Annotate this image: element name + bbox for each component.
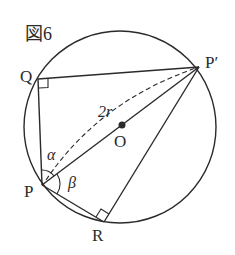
chord-q-p [38,79,42,185]
chord-q-pprime [38,67,199,79]
label-2r: 2r [98,103,113,120]
label-r: R [92,226,104,245]
label-beta: β [67,174,76,192]
label-q: Q [20,67,32,86]
label-pprime: P′ [205,53,218,72]
label-o: O [114,132,126,151]
right-angle-marker-q [39,79,48,88]
geometry-figure: 図6 Q P′ P R O 2r α β [0,0,235,255]
center-point-o [119,122,126,129]
label-alpha: α [47,146,56,163]
angle-beta-arc [57,174,60,194]
figure-title: 図6 [25,24,52,44]
label-p: P [24,182,33,201]
